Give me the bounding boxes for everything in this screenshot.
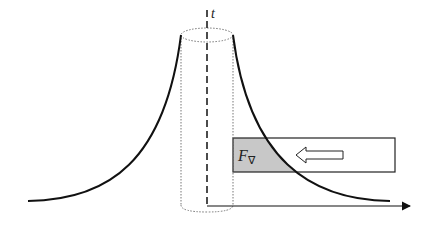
leftward-hollow-arrow bbox=[296, 147, 343, 163]
left-decay-curve bbox=[28, 35, 181, 201]
axis-label-t: t bbox=[211, 6, 216, 21]
diagram-canvas: t F∇ bbox=[0, 0, 431, 226]
right-decay-curve bbox=[233, 35, 390, 201]
